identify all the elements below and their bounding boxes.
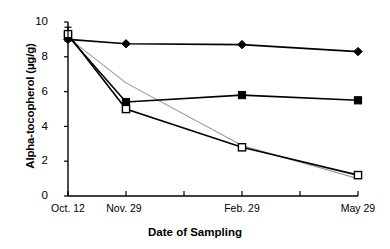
data-point-marker xyxy=(238,91,245,98)
series-line-gray-line xyxy=(68,38,358,179)
data-series-layer xyxy=(64,31,362,179)
plot-area xyxy=(0,0,390,249)
chart-container: Alpha-tocopherol (µg/g) 10 8 6 4 2 0 Oct… xyxy=(0,0,390,249)
series-line-open-square xyxy=(68,34,358,175)
data-point-marker xyxy=(122,98,129,105)
series-line-filled-square xyxy=(68,36,358,102)
data-point-marker xyxy=(354,97,361,104)
data-point-marker xyxy=(354,172,361,179)
axis-lines xyxy=(64,22,358,196)
data-point-marker xyxy=(122,105,129,112)
series-line-filled-diamond xyxy=(68,39,358,51)
data-point-marker xyxy=(122,40,130,48)
data-point-marker xyxy=(354,47,362,55)
data-point-marker xyxy=(238,40,246,48)
data-point-marker xyxy=(238,144,245,151)
